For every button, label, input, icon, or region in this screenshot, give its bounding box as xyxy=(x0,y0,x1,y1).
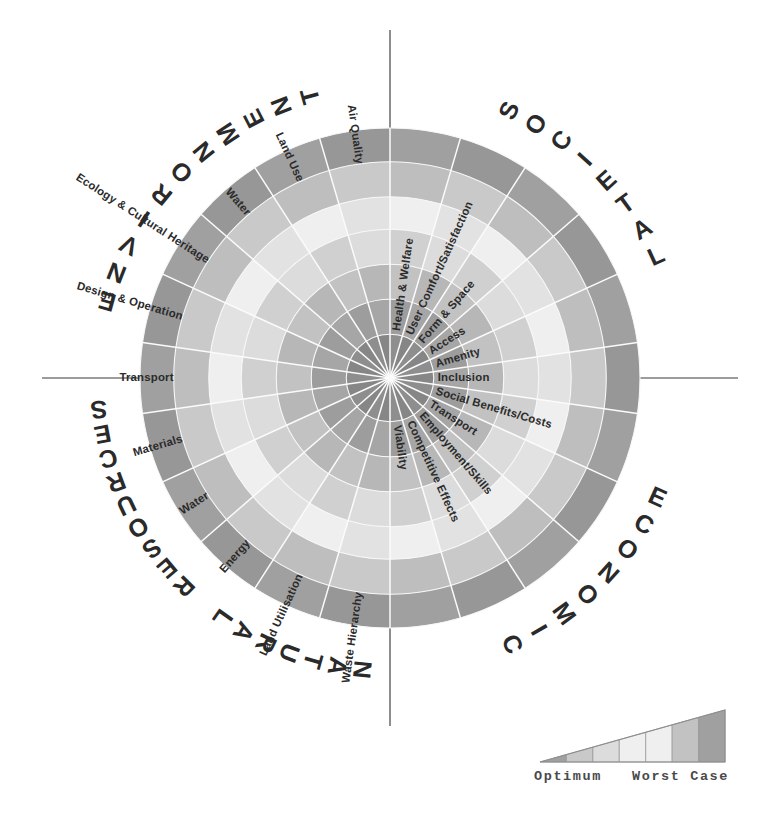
quadrant-label-glyph: E xyxy=(236,103,270,133)
legend-worst-case-label: Worst Case xyxy=(632,769,729,784)
ring-segment xyxy=(503,357,539,399)
quadrant-label-glyph: I xyxy=(526,620,555,642)
quadrant-label-glyph: S xyxy=(87,395,109,425)
ring-segment xyxy=(209,352,243,404)
legend-band xyxy=(619,732,645,762)
sector-label: Inclusion xyxy=(438,371,490,383)
ring-segment xyxy=(537,352,571,404)
quadrant-label-glyph: C xyxy=(496,630,530,660)
legend-group: OptimumWorst Case xyxy=(534,710,729,784)
diagram-canvas: Health & WelfareUser Comfort/Satisfactio… xyxy=(0,0,778,827)
sustainability-wheel-figure: Health & WelfareUser Comfort/Satisfactio… xyxy=(0,0,778,827)
ring-segment xyxy=(241,357,277,399)
legend-optimum-label: Optimum xyxy=(534,769,602,784)
quadrant-label-glyph: N xyxy=(101,256,130,289)
ring-segment xyxy=(174,347,211,409)
quadrant-label-glyph: I xyxy=(572,145,599,171)
quadrant-label-glyph: E xyxy=(644,480,673,513)
legend-band xyxy=(699,710,725,762)
ring-segment xyxy=(569,347,606,409)
legend-band xyxy=(566,747,592,762)
quadrant-label-glyph: N xyxy=(264,91,297,120)
quadrant-label-glyph: L xyxy=(643,238,670,271)
quadrant-label-glyph: T xyxy=(293,83,325,107)
sector-label: Transport xyxy=(119,371,173,383)
quadrant-label-glyph: S xyxy=(492,95,525,124)
legend-band xyxy=(646,725,672,762)
ring-segment xyxy=(604,342,640,413)
